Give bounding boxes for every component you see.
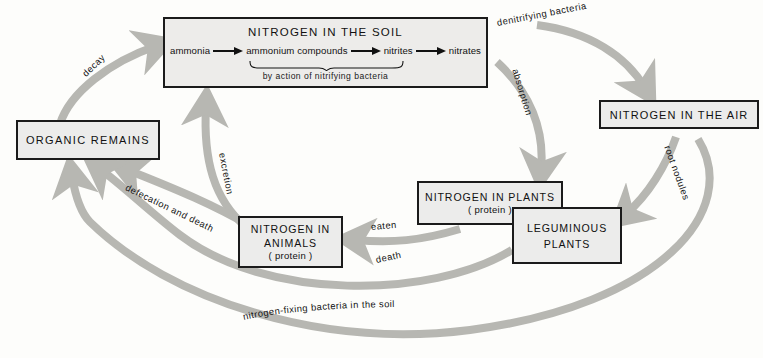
nitrogen-cycle-diagram: NITROGEN IN THE SOIL ammonia ammonium co… <box>0 0 763 358</box>
chain-item-nitrates: nitrates <box>449 45 481 56</box>
box-leguminous-plants: LEGUMINOUS PLANTS <box>512 207 622 264</box>
soil-chain: ammonia ammonium compounds nitrites nitr… <box>165 45 486 56</box>
soil-note: by action of nitrifying bacteria <box>165 71 486 81</box>
box-air-title: NITROGEN IN THE AIR <box>610 108 749 122</box>
chain-item-ammonia: ammonia <box>170 45 210 56</box>
arrow-decay <box>60 46 156 124</box>
chain-arrow-icon <box>416 46 446 55</box>
box-animals-line1: NITROGEN IN <box>251 222 330 236</box>
box-animals-subtitle: ( protein ) <box>269 250 313 262</box>
box-plants-title: NITROGEN IN PLANTS <box>425 190 555 204</box>
chain-item-nitrites: nitrites <box>384 45 413 56</box>
chain-item-ammonium-compounds: ammonium compounds <box>246 45 348 56</box>
box-nitrogen-in-the-soil: NITROGEN IN THE SOIL ammonia ammonium co… <box>163 17 488 88</box>
chain-arrow-icon <box>351 46 381 55</box>
chain-arrow-icon <box>213 46 243 55</box>
brace-icon <box>249 60 404 71</box>
arrow-denitrifying-bacteria <box>537 25 645 88</box>
box-nitrogen-in-animals: NITROGEN IN ANIMALS ( protein ) <box>238 216 343 268</box>
box-animals-line2: ANIMALS <box>264 236 317 250</box>
box-leguminous-line1: LEGUMINOUS <box>527 220 607 236</box>
box-organic-remains-title: ORGANIC REMAINS <box>26 133 150 147</box>
box-plants-subtitle: ( protein ) <box>468 204 512 216</box>
box-soil-title: NITROGEN IN THE SOIL <box>248 25 403 39</box>
box-nitrogen-in-the-air: NITROGEN IN THE AIR <box>599 100 759 129</box>
box-leguminous-line2: PLANTS <box>544 236 591 252</box>
box-organic-remains: ORGANIC REMAINS <box>16 120 160 160</box>
